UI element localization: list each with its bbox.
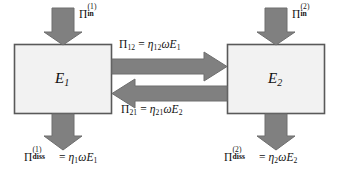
label-transfer-21: Π21 = η21ωE2 [121,103,183,117]
label-input-1: Π(1)in [79,6,105,20]
input-2-script-stack: (2)in [300,6,318,18]
label-dissipation-2: Π(2)diss = η2ωE2 [224,149,298,165]
dissipation-1-energy: E [86,151,93,163]
dissipation-1-energy-subscript: 1 [94,156,98,165]
dissipation-1-subscript: diss [32,153,45,161]
box-e2-label: E2 [268,71,282,88]
transfer-12-energy: E [170,38,177,50]
box-e2-label-sub: 2 [277,77,282,88]
dissipation-2-energy: E [286,151,293,163]
transfer-12-omega: ω [161,38,169,50]
box-e1-label-sub: 1 [64,77,69,88]
transfer-21-omega: ω [163,103,171,115]
box-e1-label: E1 [55,71,69,88]
dissipation-2-symbol: Π [224,151,232,163]
arrow-transfer-12 [112,52,227,81]
arrow-dissipation-1 [44,114,82,150]
box-e1-label-base: E [55,70,64,86]
transfer-12-equals: = [138,38,145,50]
dissipation-1-script-stack: (1)diss [32,149,56,161]
diagram-canvas [0,0,339,172]
input-1-subscript: in [87,10,94,18]
arrow-input-1 [44,8,82,45]
input-1-script-stack: (1)in [87,6,105,18]
energy-flow-diagram: E1 E2 Π(1)in Π(2)in Π12 = η12ωE1 Π21 = η… [0,0,339,172]
label-input-2: Π(2)in [292,6,318,20]
arrow-dissipation-2 [257,114,295,150]
transfer-12-subscript: 12 [127,43,135,52]
dissipation-2-script-stack: (2)diss [232,149,256,161]
transfer-21-subscript: 21 [129,108,137,117]
transfer-21-energy-subscript: 2 [179,108,183,117]
label-transfer-12: Π12 = η12ωE1 [119,38,181,52]
box-e2-label-base: E [268,70,277,86]
input-2-symbol: Π [292,8,300,20]
input-1-symbol: Π [79,8,87,20]
label-dissipation-1: Π(1)diss = η1ωE1 [24,149,98,165]
transfer-21-energy: E [172,103,179,115]
transfer-21-equals: = [140,103,147,115]
dissipation-2-equals: = [259,151,266,163]
dissipation-1-equals: = [59,151,66,163]
dissipation-2-subscript: diss [232,153,245,161]
dissipation-2-energy-subscript: 2 [294,156,298,165]
transfer-12-energy-subscript: 1 [177,43,181,52]
dissipation-1-symbol: Π [24,151,32,163]
input-2-subscript: in [300,10,307,18]
arrow-input-2 [257,8,295,45]
